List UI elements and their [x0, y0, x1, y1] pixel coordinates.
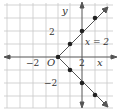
y-axis-label: y: [61, 5, 68, 16]
tick-y-2: 2: [49, 27, 55, 37]
x-axis-label: x: [97, 57, 103, 68]
tick-x-2: 2: [79, 58, 85, 68]
origin-label: O: [47, 57, 55, 68]
tick-x-neg2: −2: [26, 58, 39, 68]
graph: y x O −2 2 2 −2 x = 2: [0, 0, 121, 110]
line-label: x = 2: [85, 37, 109, 47]
tick-y-neg2: −2: [44, 78, 57, 88]
